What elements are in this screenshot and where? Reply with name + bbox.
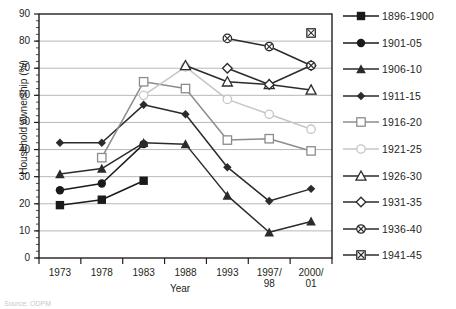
legend-label: 1906-10 [382,63,422,75]
data-point-marker [265,42,273,50]
data-point-marker [139,78,147,86]
legend-label: 1931-35 [382,196,422,208]
x-axis-title: Year [150,283,210,294]
legend-label: 1896-1900 [382,10,434,22]
chart-legend: 1896-19001901-051906-101911-151916-20192… [340,0,456,309]
data-point-marker [307,29,315,37]
data-point-marker [98,196,106,204]
legend-item-1936-40[interactable]: 1936-40 [340,221,422,237]
data-point-marker [139,91,147,99]
y-axis-tick-label: 80 [4,35,30,46]
legend-marker-open-circle-icon [340,141,382,157]
y-axis-tick-label: 20 [4,198,30,209]
legend-item-1931-35[interactable]: 1931-35 [340,194,422,210]
y-axis-tick-label: 40 [4,144,30,155]
series-1941-45 [307,29,315,37]
legend-item-1926-30[interactable]: 1926-30 [340,168,422,184]
legend-marker-filled-diamond-icon [340,88,382,104]
data-point-marker [307,125,315,133]
legend-label: 1926-30 [382,170,422,182]
legend-label: 1936-40 [382,223,422,235]
chart-plot-area: Household ownership (%) Year 01020304050… [0,0,340,309]
data-point-marker [307,147,315,155]
legend-item-1941-45[interactable]: 1941-45 [340,247,422,263]
legend-label: 1916-20 [382,116,422,128]
legend-label: 1941-45 [382,249,422,261]
legend-item-1916-20[interactable]: 1916-20 [340,114,422,130]
y-axis-tick-label: 50 [4,116,30,127]
y-axis-tick-label: 30 [4,171,30,182]
legend-marker-filled-circle-icon [340,35,382,51]
legend-marker-open-square-icon [340,114,382,130]
legend-item-1906-10[interactable]: 1906-10 [340,61,422,77]
legend-label: 1921-25 [382,143,422,155]
y-axis-tick-label: 90 [4,8,30,19]
data-point-marker [223,136,231,144]
source-note: Source: ODPM [4,300,154,309]
data-point-marker [98,179,106,187]
data-point-marker [181,84,189,92]
legend-marker-open-diamond-icon [340,194,382,210]
data-point-marker [223,34,231,42]
legend-item-1896-1900[interactable]: 1896-1900 [340,8,434,24]
x-axis-tick-label: 2000/01 [286,267,336,289]
legend-marker-crossed-circle-icon [340,221,382,237]
data-point-marker [139,177,147,185]
y-axis-tick-label: 70 [4,62,30,73]
chart-figure: Household ownership (%) Year 01020304050… [0,0,456,309]
legend-item-1901-05[interactable]: 1901-05 [340,35,422,51]
y-axis-tick-label: 0 [4,252,30,263]
data-point-marker [98,153,106,161]
legend-marker-crossed-square-icon [340,247,382,263]
data-point-marker [223,95,231,103]
legend-item-1921-25[interactable]: 1921-25 [340,141,422,157]
data-point-marker [56,201,64,209]
data-point-marker [265,110,273,118]
y-axis-tick-label: 10 [4,225,30,236]
legend-marker-filled-triangle-icon [340,61,382,77]
data-point-marker [307,61,315,69]
legend-label: 1901-05 [382,37,422,49]
y-axis-tick-label: 60 [4,89,30,100]
data-point-marker [56,186,64,194]
legend-item-1911-15[interactable]: 1911-15 [340,88,421,104]
legend-label: 1911-15 [382,90,421,102]
legend-marker-open-triangle-icon [340,168,382,184]
data-point-marker [265,135,273,143]
chart-svg [0,0,340,309]
legend-marker-filled-square-icon [340,8,382,24]
